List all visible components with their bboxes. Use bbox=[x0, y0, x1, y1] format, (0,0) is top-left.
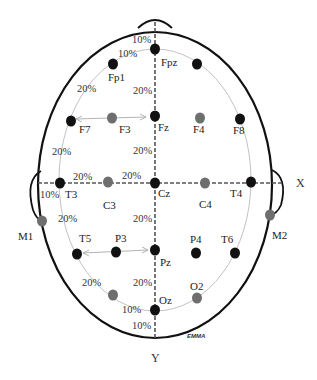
percent-label: 10% bbox=[40, 189, 60, 200]
signature: EMMA bbox=[187, 333, 205, 339]
percent-label: 20% bbox=[122, 170, 142, 181]
percent-label: 20% bbox=[133, 145, 153, 156]
electrode-label-f8: F8 bbox=[233, 124, 245, 136]
electrode-c4 bbox=[200, 178, 210, 189]
electrode-label-p3: P3 bbox=[115, 232, 127, 244]
electrode-label-c3: C3 bbox=[103, 199, 116, 211]
electrode-f3 bbox=[107, 113, 117, 124]
electrode-t4 bbox=[246, 177, 256, 188]
electrode-f4 bbox=[195, 113, 205, 124]
electrode-fp1 bbox=[108, 59, 118, 70]
electrode-fpz bbox=[150, 44, 160, 55]
electrode-label-f3: F3 bbox=[119, 123, 131, 135]
electrode-label-t3: T3 bbox=[65, 188, 78, 200]
electrode-label-pz: Pz bbox=[160, 256, 171, 268]
electrode-m1 bbox=[37, 216, 47, 227]
percent-label: 20% bbox=[58, 213, 78, 224]
electrode-oz bbox=[150, 305, 160, 316]
electrode-label-fz: Fz bbox=[158, 121, 169, 133]
electrode-t3 bbox=[55, 178, 65, 189]
electrode-f7 bbox=[66, 116, 76, 127]
electrode-o1 bbox=[108, 290, 118, 301]
electrode-c3 bbox=[103, 177, 113, 188]
percent-label: 10% bbox=[132, 34, 152, 45]
electrode-label-cz: Cz bbox=[158, 187, 170, 199]
electrode-label-m1: M1 bbox=[18, 230, 33, 242]
electrode-label-c4: C4 bbox=[199, 198, 212, 210]
electrode-label-p4: P4 bbox=[190, 233, 202, 245]
electrode-t5 bbox=[72, 249, 82, 260]
electrode-label-o2: O2 bbox=[190, 280, 203, 292]
electrode-t6 bbox=[230, 248, 240, 259]
percent-label: 20% bbox=[133, 277, 153, 288]
electrode-pz bbox=[150, 245, 160, 256]
percent-label: 20% bbox=[73, 171, 93, 182]
percent-label: 10% bbox=[118, 48, 138, 59]
electrode-label-f4: F4 bbox=[193, 123, 205, 135]
electrode-o2 bbox=[192, 293, 202, 304]
electrode-p3 bbox=[111, 247, 121, 258]
electrode-m2 bbox=[265, 210, 275, 221]
electrode-label-t4: T4 bbox=[230, 187, 243, 199]
electrode-label-t5: T5 bbox=[79, 232, 92, 244]
electrode-fp2 bbox=[192, 59, 202, 70]
eeg-10-20-diagram: FpzFp1F7F3FzF4F8T3C3CzC4T4M1M2T5P3PzP4T6… bbox=[0, 0, 317, 380]
electrode-label-f7: F7 bbox=[79, 123, 91, 135]
electrode-label-fpz: Fpz bbox=[161, 56, 178, 68]
percent-label: 10% bbox=[122, 304, 142, 315]
electrode-label-m2: M2 bbox=[272, 229, 287, 241]
percent-label: 20% bbox=[77, 83, 97, 94]
electrode-label-fp1: Fp1 bbox=[108, 71, 125, 83]
y-axis-label: Y bbox=[151, 351, 160, 365]
electrode-fz bbox=[150, 111, 160, 122]
x-axis-label: X bbox=[296, 176, 305, 190]
percent-label: 20% bbox=[133, 213, 153, 224]
electrode-label-oz: Oz bbox=[159, 294, 172, 306]
percent-label: 20% bbox=[133, 85, 153, 96]
percent-label: 10% bbox=[132, 320, 152, 331]
percent-label: 20% bbox=[82, 277, 102, 288]
electrode-f8 bbox=[235, 114, 245, 125]
percent-label: 20% bbox=[52, 146, 72, 157]
electrode-p4 bbox=[191, 248, 201, 259]
electrode-label-t6: T6 bbox=[221, 233, 234, 245]
